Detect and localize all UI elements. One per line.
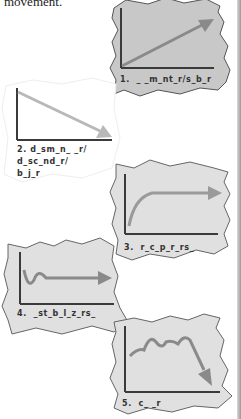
card-2-label-line-3: b_j_r	[17, 168, 40, 179]
intro-text: movement.	[4, 0, 62, 10]
card-3-plateau: 3. r_c_p_r_rs_	[110, 160, 234, 262]
card-2-label-line-1: 2. d_sm_n_ _r/	[17, 144, 87, 155]
card-5-label: 5. c_ _r	[122, 398, 161, 409]
card-1-rising: 1. _ _m_nt_r/s_b_r	[108, 0, 232, 98]
card-2-falling: 2. d_sm_n_ _r/ d_sc_nd_r/ b_j_r	[2, 78, 122, 184]
card-4-label: 4. _st_b_l_z_rs_	[17, 308, 96, 319]
page-edge-shadow	[237, 0, 241, 419]
card-2-label-line-2: d_sc_nd_r/	[17, 156, 69, 167]
card-1-label: 1. _ _m_nt_r/s_b_r	[120, 74, 212, 85]
card-5-decline: 5. c_ _r	[108, 312, 234, 416]
card-3-label: 3. r_c_p_r_rs_	[124, 242, 194, 253]
